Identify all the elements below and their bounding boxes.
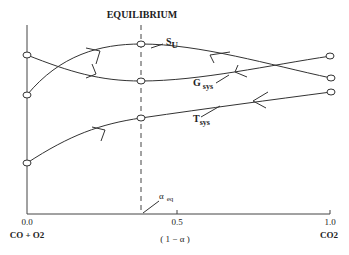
point-marker xyxy=(23,160,31,166)
alpha-eq-leader xyxy=(143,201,159,213)
point-marker xyxy=(137,115,145,121)
x-tick-label-0.5: 0.5 xyxy=(171,217,183,227)
x-tick-label-1: 1.0 xyxy=(324,217,336,227)
point-marker xyxy=(327,89,335,95)
label-gsys: Gsys xyxy=(193,77,213,91)
point-marker xyxy=(326,53,334,59)
gsys-leader xyxy=(216,75,229,83)
point-marker xyxy=(23,92,31,98)
arrow-icon xyxy=(253,92,268,108)
label-su: SU xyxy=(166,36,179,50)
right-end-label: CO2 xyxy=(320,230,339,240)
tsys-leader xyxy=(201,106,220,117)
point-marker xyxy=(23,52,31,58)
curve-tsys xyxy=(27,92,331,163)
label-alpha-eq: αeq xyxy=(159,191,174,203)
equilibrium-title: EQUILIBRIUM xyxy=(107,9,178,20)
point-marker xyxy=(327,75,335,81)
arrow-icon xyxy=(86,64,96,78)
point-marker xyxy=(137,41,145,47)
left-end-label: CO + O2 xyxy=(10,230,45,240)
point-marker xyxy=(137,78,145,84)
label-tsys: Tsys xyxy=(193,113,210,127)
arrow-icon xyxy=(210,52,230,63)
equilibrium-diagram: EQUILIBRIUM SU Gsys Tsys αeq 0.0 0.5 1.0… xyxy=(0,0,349,255)
x-axis-label: ( 1 − α ) xyxy=(160,234,189,244)
x-tick-label-0: 0.0 xyxy=(21,217,33,227)
curve-su xyxy=(27,44,331,95)
